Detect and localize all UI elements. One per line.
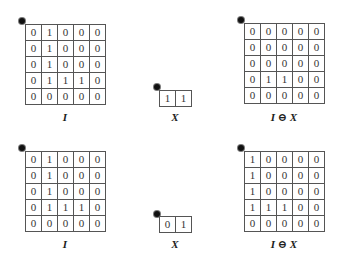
cell: 0 [261,40,277,56]
cell: 0 [160,217,176,233]
cell: 0 [26,200,42,216]
cell: 0 [26,152,42,168]
cell: 0 [261,152,277,168]
image-label: I [20,111,110,123]
cell: 0 [309,24,325,40]
cell: 1 [42,200,58,216]
cell: 0 [293,40,309,56]
cell: 0 [309,168,325,184]
cell: 1 [42,25,58,41]
image-grid: 01000 01000 01000 01110 00000 [25,151,106,232]
cell: 0 [293,24,309,40]
cell: 1 [176,217,192,233]
cell: 0 [245,56,261,72]
cell: 0 [277,216,293,232]
cell: 0 [58,57,74,73]
cell: 0 [245,40,261,56]
cell: 0 [90,25,106,41]
cell: 1 [42,41,58,57]
cell: 0 [293,168,309,184]
image-grid: 01000 01000 01000 01110 00000 [25,24,106,105]
cell: 0 [293,88,309,104]
cell: 1 [42,168,58,184]
cell: 0 [26,184,42,200]
structuring-element-grid: 01 [159,216,192,233]
cell: 0 [58,25,74,41]
cell: 1 [261,72,277,88]
cell: 0 [293,216,309,232]
cell: 0 [245,24,261,40]
cell: 0 [90,73,106,89]
cell: 0 [309,200,325,216]
cell: 1 [277,72,293,88]
cell: 0 [293,184,309,200]
cell: 0 [277,56,293,72]
cell: 0 [245,88,261,104]
cell: 0 [42,216,58,232]
cell: 1 [42,73,58,89]
cell: 0 [74,152,90,168]
cell: 0 [261,88,277,104]
cell: 0 [309,40,325,56]
result-label: I ⊖ X [239,238,329,251]
cell: 1 [58,200,74,216]
cell: 0 [74,41,90,57]
cell: 0 [58,216,74,232]
cell: 0 [293,152,309,168]
cell: 0 [245,72,261,88]
cell: 0 [90,89,106,105]
cell: 1 [42,184,58,200]
cell: 0 [309,72,325,88]
cell: 0 [309,216,325,232]
cell: 0 [261,56,277,72]
cell: 0 [74,168,90,184]
cell: 0 [277,40,293,56]
cell: 0 [26,25,42,41]
cell: 0 [309,56,325,72]
cell: 1 [42,57,58,73]
cell: 0 [309,88,325,104]
cell: 0 [245,216,261,232]
cell: 1 [74,73,90,89]
cell: 0 [26,89,42,105]
cell: 0 [293,72,309,88]
cell: 0 [58,184,74,200]
cell: 0 [261,168,277,184]
cell: 1 [58,73,74,89]
cell: 0 [90,152,106,168]
cell: 0 [90,41,106,57]
cell: 0 [261,24,277,40]
cell: 0 [309,184,325,200]
cell: 0 [58,41,74,57]
cell: 1 [245,168,261,184]
cell: 0 [58,89,74,105]
cell: 0 [277,168,293,184]
cell: 1 [261,200,277,216]
cell: 0 [26,168,42,184]
cell: 0 [90,216,106,232]
cell: 1 [160,91,176,107]
cell: 1 [245,200,261,216]
cell: 0 [90,184,106,200]
cell: 1 [74,200,90,216]
image-label: I [20,238,110,250]
cell: 0 [90,57,106,73]
cell: 0 [90,168,106,184]
cell: 0 [26,57,42,73]
cell: 0 [277,184,293,200]
cell: 0 [90,200,106,216]
cell: 0 [26,41,42,57]
cell: 0 [261,216,277,232]
cell: 0 [74,184,90,200]
cell: 0 [74,89,90,105]
result-grid: 00000 00000 00000 01100 00000 [244,23,325,104]
cell: 0 [309,152,325,168]
structuring-element-grid: 11 [159,90,192,107]
structuring-element-label: X [130,111,220,123]
result-grid: 10000 10000 10000 11100 00000 [244,151,325,232]
cell: 0 [42,89,58,105]
cell: 0 [26,216,42,232]
cell: 1 [245,184,261,200]
cell: 0 [58,168,74,184]
cell: 0 [277,88,293,104]
